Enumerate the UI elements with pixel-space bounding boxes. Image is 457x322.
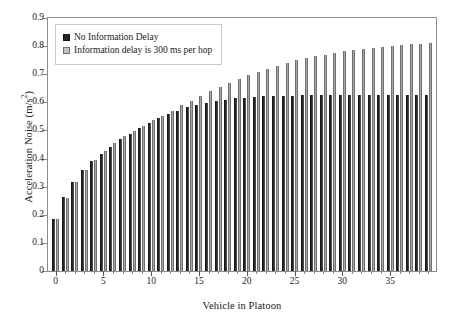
x-axis-tick-label: 5 <box>101 277 106 287</box>
bar-no-information-delay <box>186 107 189 271</box>
x-axis-minor-tick <box>94 271 95 274</box>
bar-information-delay-300ms <box>362 49 365 271</box>
bar-group <box>253 18 261 271</box>
bar-information-delay-300ms <box>266 69 269 271</box>
bar-information-delay-300ms <box>104 151 107 271</box>
x-axis-minor-tick <box>189 271 190 274</box>
bar-information-delay-300ms <box>142 126 145 271</box>
bar-information-delay-300ms <box>372 48 375 271</box>
bar-no-information-delay <box>138 128 141 271</box>
bar-information-delay-300ms <box>171 111 174 271</box>
bar-information-delay-300ms <box>219 87 222 271</box>
legend: No Information Delay Information delay i… <box>55 24 222 65</box>
bar-no-information-delay <box>425 95 428 271</box>
bar-no-information-delay <box>415 95 418 271</box>
x-axis-minor-tick <box>275 271 276 274</box>
bar-no-information-delay <box>253 97 256 271</box>
bar-no-information-delay <box>339 95 342 271</box>
y-axis-tick-label: 0.8 <box>32 41 44 51</box>
bar-group <box>377 18 385 271</box>
y-axis-title-exponent: 2 <box>20 94 29 98</box>
bar-no-information-delay <box>406 95 409 271</box>
x-axis-minor-tick <box>209 271 210 274</box>
bar-group <box>262 18 270 271</box>
bar-information-delay-300ms <box>429 43 432 271</box>
bar-information-delay-300ms <box>94 160 97 271</box>
legend-label-no-information-delay: No Information Delay <box>74 32 158 42</box>
bar-information-delay-300ms <box>419 44 422 271</box>
bar-no-information-delay <box>205 103 208 271</box>
x-axis-minor-tick <box>65 271 66 274</box>
y-axis-title-tail: ) <box>23 91 34 95</box>
bar-information-delay-300ms <box>113 143 116 271</box>
bar-group <box>234 18 242 271</box>
bar-group <box>282 18 290 271</box>
bar-no-information-delay <box>387 95 390 271</box>
bar-no-information-delay <box>358 95 361 271</box>
y-axis-tick-label: 0.9 <box>32 13 44 23</box>
plot-area: 00.10.20.30.40.50.60.70.80.9 05101520253… <box>47 17 437 272</box>
bar-no-information-delay <box>377 95 380 271</box>
x-axis-minor-tick <box>323 271 324 274</box>
bar-no-information-delay <box>157 118 160 271</box>
bar-no-information-delay <box>176 111 179 271</box>
bar-group <box>425 18 433 271</box>
x-axis-title: Vehicle in Platoon <box>47 300 437 311</box>
bar-information-delay-300ms <box>161 116 164 271</box>
x-axis-minor-tick <box>123 271 124 274</box>
y-axis-tick-label: 0.3 <box>32 182 44 192</box>
x-axis-tick-label: 20 <box>242 277 252 287</box>
x-axis-minor-tick <box>419 271 420 274</box>
bar-group <box>301 18 309 271</box>
bar-information-delay-300ms <box>324 55 327 271</box>
x-axis-minor-tick <box>361 271 362 274</box>
x-axis-minor-tick <box>237 271 238 274</box>
bar-no-information-delay <box>195 105 198 271</box>
bar-no-information-delay <box>329 95 332 271</box>
legend-swatch-icon-dark <box>63 34 70 41</box>
bar-information-delay-300ms <box>314 56 317 271</box>
legend-label-information-delay-300ms: Information delay is 300 ms per hop <box>74 45 212 55</box>
x-axis-minor-tick <box>314 271 315 274</box>
bar-information-delay-300ms <box>133 131 136 271</box>
acceleration-noise-bar-chart: Acceleration Noise (m/s2) 00.10.20.30.40… <box>0 0 457 322</box>
x-axis-tick-label: 15 <box>194 277 204 287</box>
y-axis-tick-label: 0.5 <box>32 126 44 136</box>
bar-group <box>396 18 404 271</box>
bar-information-delay-300ms <box>123 136 126 271</box>
bar-group <box>348 18 356 271</box>
bar-no-information-delay <box>71 182 74 271</box>
bar-information-delay-300ms <box>305 58 308 271</box>
x-axis-minor-tick <box>256 271 257 274</box>
bar-no-information-delay <box>119 139 122 271</box>
x-axis-minor-tick <box>381 271 382 274</box>
bar-no-information-delay <box>148 123 151 271</box>
bar-group <box>368 18 376 271</box>
x-axis-minor-tick <box>84 271 85 274</box>
y-axis-tick-label: 0 <box>39 266 44 276</box>
bar-information-delay-300ms <box>276 66 279 271</box>
bar-information-delay-300ms <box>286 63 289 271</box>
bar-group <box>358 18 366 271</box>
bar-information-delay-300ms <box>295 60 298 271</box>
x-axis-tick-label: 35 <box>385 277 395 287</box>
x-axis-minor-tick <box>170 271 171 274</box>
bar-information-delay-300ms <box>75 182 78 271</box>
bar-information-delay-300ms <box>209 91 212 271</box>
y-axis-tick-label: 0.4 <box>32 154 44 164</box>
bar-group <box>243 18 251 271</box>
bar-no-information-delay <box>291 96 294 271</box>
bar-information-delay-300ms <box>352 50 355 271</box>
x-axis-minor-tick <box>409 271 410 274</box>
x-axis-minor-tick <box>113 271 114 274</box>
bar-information-delay-300ms <box>343 51 346 271</box>
bar-no-information-delay <box>320 95 323 271</box>
bar-information-delay-300ms <box>199 96 202 271</box>
x-axis-minor-tick <box>285 271 286 274</box>
bar-group <box>291 18 299 271</box>
bar-information-delay-300ms <box>180 105 183 271</box>
x-axis-minor-tick <box>371 271 372 274</box>
bar-information-delay-300ms <box>391 46 394 271</box>
bar-no-information-delay <box>368 95 371 271</box>
bar-no-information-delay <box>167 114 170 271</box>
